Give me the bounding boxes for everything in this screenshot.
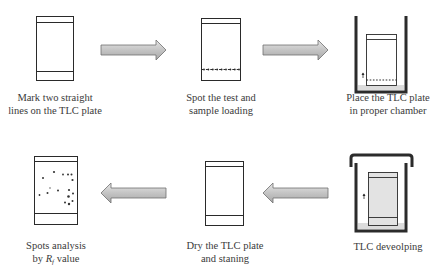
step-2-label-line1: Spot the test and	[166, 91, 276, 104]
tlc-plate-spots-icon	[35, 157, 78, 225]
tlc-plate-spotted-icon	[202, 19, 241, 81]
arrow-right-icon	[263, 40, 328, 60]
step-4-label: TLC deveolping	[330, 240, 446, 253]
arrow-right-icon	[101, 40, 166, 60]
step-1-label-line2: lines on the TLC plate	[0, 104, 110, 117]
step-5-label-line2: and staning	[170, 252, 280, 265]
step-6-label-line1: Spots analysis	[0, 239, 112, 252]
arrow-left-icon	[263, 183, 328, 203]
step-6-label: Spots analysis by Rf value	[0, 239, 112, 269]
tlc-diagram-canvas	[0, 0, 446, 278]
tlc-plate-dry-icon	[206, 162, 244, 226]
open-chamber-icon	[356, 16, 406, 92]
step-2-label-line2: sample loading	[166, 104, 276, 117]
step-4-label-line1: TLC deveolping	[330, 240, 446, 253]
step-3-label-line2: in proper chamber	[330, 104, 446, 117]
step-1-label: Mark two straight lines on the TLC plate	[0, 91, 110, 117]
step-2-label: Spot the test and sample loading	[166, 91, 276, 117]
step-3-label: Place the TLC plate in proper chamber	[330, 91, 446, 117]
step-3-label-line1: Place the TLC plate	[330, 91, 446, 104]
tlc-plate-marked-icon	[37, 17, 74, 81]
rf-suffix: value	[54, 253, 79, 264]
covered-chamber-icon	[351, 155, 412, 231]
step-5-label-line1: Dry the TLC plate	[170, 239, 280, 252]
arrow-left-icon	[101, 183, 166, 203]
step-1-label-line1: Mark two straight	[0, 91, 110, 104]
step-5-label: Dry the TLC plate and staning	[170, 239, 280, 265]
rf-prefix: by	[33, 253, 46, 264]
step-6-label-line2: by Rf value	[0, 252, 112, 269]
